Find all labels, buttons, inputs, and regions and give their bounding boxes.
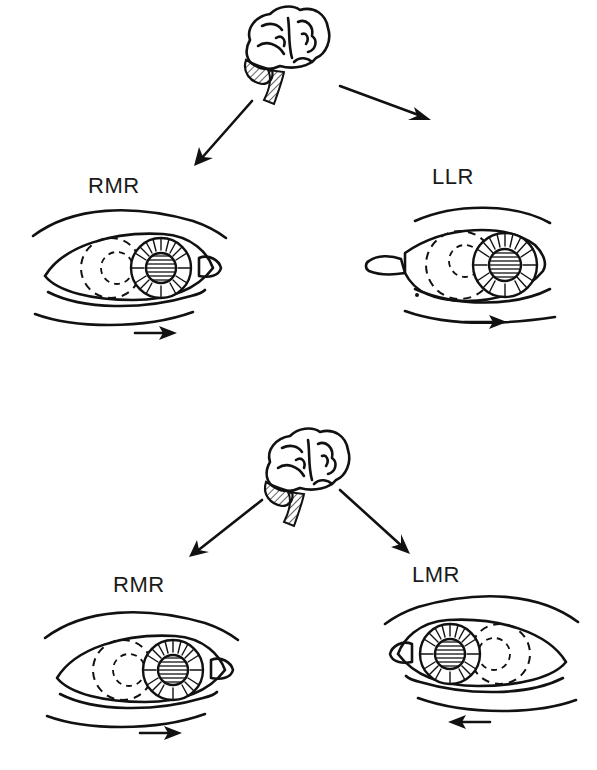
movement-arrow-llr-top bbox=[465, 315, 507, 329]
eye-rmr-top bbox=[33, 210, 226, 325]
label-llr-top: LLR bbox=[432, 164, 474, 190]
brain-icon-top bbox=[245, 7, 329, 104]
movement-arrow-rmr-top bbox=[135, 326, 177, 340]
movement-arrow-rmr-bottom bbox=[140, 726, 182, 740]
eye-lmr-bottom bbox=[385, 596, 578, 711]
brain-icon-bottom bbox=[265, 429, 349, 526]
arrow-brain-to-llr-top bbox=[340, 86, 431, 120]
label-rmr-bottom: RMR bbox=[113, 572, 165, 598]
label-rmr-top: RMR bbox=[88, 173, 140, 199]
movement-arrow-lmr-bottom bbox=[448, 715, 490, 729]
arrow-brain-to-rmr-top bbox=[194, 101, 252, 166]
label-lmr-bottom: LMR bbox=[412, 562, 460, 588]
arrow-brain-to-lmr-bottom bbox=[340, 490, 410, 554]
eye-rmr-bottom bbox=[45, 612, 238, 727]
eye-llr-top bbox=[366, 208, 555, 323]
arrow-brain-to-rmr-bottom bbox=[189, 500, 262, 557]
